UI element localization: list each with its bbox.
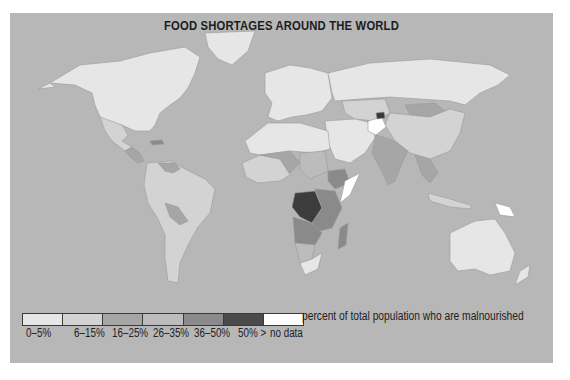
world-map xyxy=(10,13,553,313)
legend-swatch-36-50 xyxy=(184,314,224,325)
region-north-africa xyxy=(245,123,330,155)
region-new-zealand xyxy=(515,265,530,285)
region-chad-sudan xyxy=(300,151,328,179)
region-southeast-asia xyxy=(415,155,438,183)
legend-label: 16–25% xyxy=(112,326,148,340)
map-title: FOOD SHORTAGES AROUND THE WORLD xyxy=(37,19,526,33)
region-caribbean xyxy=(150,140,164,145)
legend-caption: percent of total population who are maln… xyxy=(302,309,524,323)
legend-swatch-0-5 xyxy=(23,314,63,325)
region-indonesia xyxy=(428,193,472,209)
legend-swatch-50-plus xyxy=(224,314,264,325)
region-europe xyxy=(265,65,332,121)
legend-label: 6–15% xyxy=(74,326,105,340)
legend-swatches xyxy=(22,313,304,326)
region-papua-new-guinea xyxy=(495,203,515,217)
legend-swatch-no-data xyxy=(264,314,303,325)
region-madagascar xyxy=(338,223,348,249)
region-central-america xyxy=(125,147,144,163)
region-russia xyxy=(328,59,510,105)
region-australia xyxy=(450,219,515,275)
region-greenland xyxy=(205,31,255,65)
legend-label: no data xyxy=(270,326,303,340)
region-middle-east xyxy=(325,119,375,163)
legend-swatch-6-15 xyxy=(63,314,103,325)
region-north-america xyxy=(50,47,200,131)
map-panel: FOOD SHORTAGES AROUND THE WORLD 0–5% 6–1… xyxy=(10,13,553,363)
legend-swatch-16-25 xyxy=(103,314,143,325)
legend-label: 50% > xyxy=(238,326,266,340)
legend-label: 0–5% xyxy=(26,326,51,340)
region-tajikistan xyxy=(376,112,385,119)
legend-label: 36–50% xyxy=(194,326,230,340)
legend-label: 26–35% xyxy=(153,326,189,340)
legend-swatch-26-35 xyxy=(143,314,183,325)
legend: 0–5% 6–15% 16–25% 26–35% 36–50% 50% > no… xyxy=(22,313,304,326)
region-alaska-tail xyxy=(38,83,55,89)
legend-labels: 0–5% 6–15% 16–25% 26–35% 36–50% 50% > no… xyxy=(22,326,322,342)
